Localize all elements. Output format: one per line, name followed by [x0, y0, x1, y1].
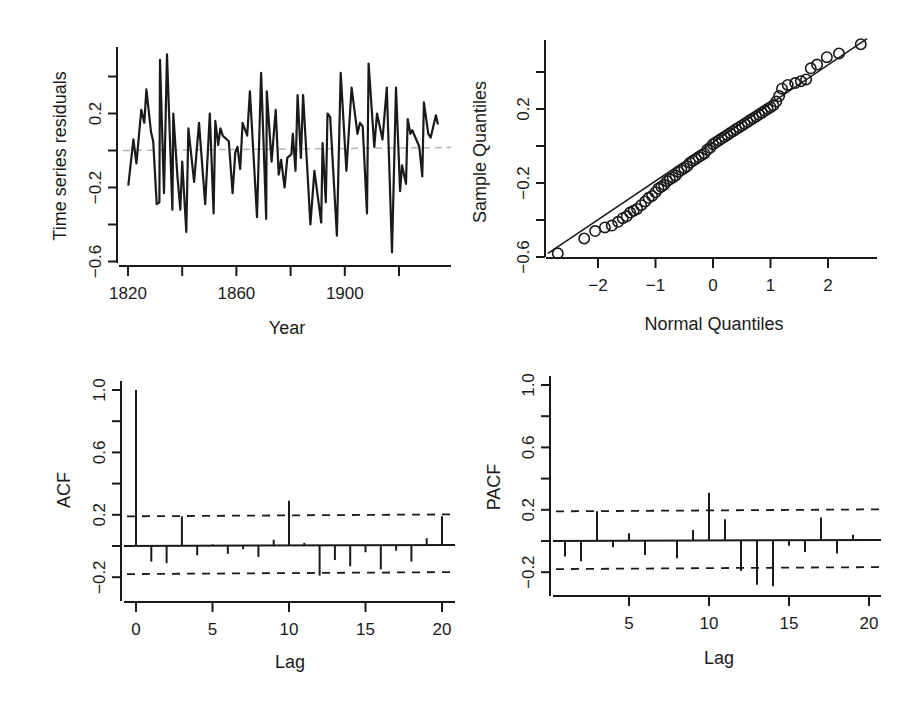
acf-y-tick-label: 0.2 — [90, 503, 109, 527]
acf-x-tick-label: 10 — [280, 620, 299, 639]
pacf-x-tick-label: 20 — [860, 614, 879, 633]
qq-point — [579, 233, 589, 243]
pacf-confidence-bound — [556, 567, 881, 569]
qq-x-tick-label: −2 — [588, 276, 607, 295]
ts-y-tick-label: −0.6 — [86, 245, 105, 279]
acf-confidence-bound — [127, 514, 455, 516]
pacf-plot: −0.20.20.61.05101520 — [519, 373, 881, 633]
qq-point — [822, 52, 832, 62]
qq-x-tick-label: 2 — [823, 276, 832, 295]
acf-x-tick-label: 15 — [356, 620, 375, 639]
pacf-x-tick-label: 5 — [624, 614, 633, 633]
acf-xlabel: Lag — [275, 652, 305, 672]
time-series-residuals-plot: −0.6−0.20.2182018601900 — [86, 47, 451, 303]
ts-y-tick-label: 0.2 — [86, 102, 105, 126]
ts-y-tick-label: −0.2 — [86, 171, 105, 205]
pacf-y-tick-label: 0.2 — [519, 498, 538, 522]
normal-qq-plot: −0.6−0.20.2−2−1012 — [514, 39, 877, 295]
pacf-confidence-bound — [556, 509, 881, 511]
pacf-ylabel: PACF — [484, 464, 504, 511]
qq-y-tick-label: −0.2 — [514, 166, 533, 200]
acf-x-tick-label: 0 — [131, 620, 140, 639]
qq-point — [600, 222, 610, 232]
figure-canvas: −0.6−0.20.2182018601900 −0.6−0.20.2−2−10… — [0, 0, 924, 713]
qq-point — [856, 39, 866, 49]
pacf-y-tick-label: −0.2 — [519, 555, 538, 589]
pacf-y-tick-label: 1.0 — [519, 373, 538, 397]
acf-plot: −0.20.20.61.005101520 — [90, 378, 455, 639]
qq-x-tick-label: 0 — [708, 276, 717, 295]
pacf-zero-line — [553, 540, 881, 541]
qq-ylabel: Sample Quantiles — [470, 81, 490, 223]
pacf-xlabel: Lag — [704, 648, 734, 668]
ts-x-tick-label: 1820 — [109, 284, 147, 303]
acf-x-tick-label: 5 — [208, 620, 217, 639]
ts-ylabel: Time series residuals — [50, 71, 70, 240]
ts-xlabel: Year — [269, 318, 305, 338]
acf-confidence-bound — [127, 572, 455, 574]
pacf-y-tick-label: 0.6 — [519, 436, 538, 460]
acf-ylabel: ACF — [54, 472, 74, 508]
figure: −0.6−0.20.2182018601900 −0.6−0.20.2−2−10… — [0, 0, 924, 713]
acf-y-tick-label: 0.6 — [90, 441, 109, 465]
qq-x-tick-label: −1 — [646, 276, 665, 295]
acf-x-tick-label: 20 — [433, 620, 452, 639]
ts-x-tick-label: 1860 — [217, 284, 255, 303]
qq-xlabel: Normal Quantiles — [644, 314, 783, 334]
qq-point — [553, 248, 563, 258]
qq-point — [590, 226, 600, 236]
qq-y-tick-label: −0.6 — [514, 240, 533, 274]
qq-x-tick-label: 1 — [766, 276, 775, 295]
acf-y-tick-label: −0.2 — [90, 560, 109, 594]
acf-y-tick-label: 1.0 — [90, 378, 109, 402]
pacf-x-tick-label: 15 — [780, 614, 799, 633]
ts-x-tick-label: 1900 — [326, 284, 364, 303]
residuals-line — [128, 54, 438, 252]
pacf-x-tick-label: 10 — [700, 614, 719, 633]
qq-y-tick-label: 0.2 — [514, 97, 533, 121]
